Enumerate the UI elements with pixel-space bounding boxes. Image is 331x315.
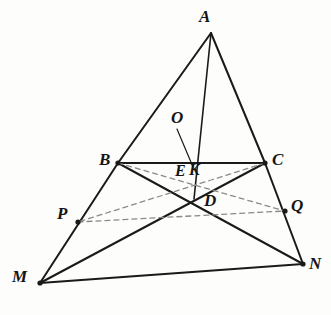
point-label-a: A [199, 8, 210, 25]
segments-layer [40, 33, 303, 283]
point-label-q: Q [291, 197, 303, 214]
segment-BQ [118, 163, 285, 211]
vertex-dot-m [37, 280, 42, 285]
point-label-c: C [272, 151, 283, 168]
geometry-figure: ABCMNPQDEKO [0, 0, 331, 315]
vertex-dot-c [262, 160, 267, 165]
point-label-o: O [171, 109, 183, 126]
point-label-m: M [12, 268, 27, 285]
segment-AC [211, 33, 265, 163]
vertex-dot-n [300, 261, 305, 266]
vertex-dot-q [282, 208, 287, 213]
segment-AB [118, 33, 211, 163]
segment-MN [40, 264, 303, 283]
vertex-dot-p [75, 219, 80, 224]
point-label-e: E [175, 163, 186, 179]
point-label-n: N [309, 255, 321, 272]
point-label-k: K [189, 162, 200, 178]
segment-BN [118, 163, 303, 264]
point-label-d: D [204, 192, 216, 209]
point-label-p: P [57, 205, 67, 222]
point-label-b: B [99, 151, 110, 168]
vertex-dot-b [115, 160, 120, 165]
